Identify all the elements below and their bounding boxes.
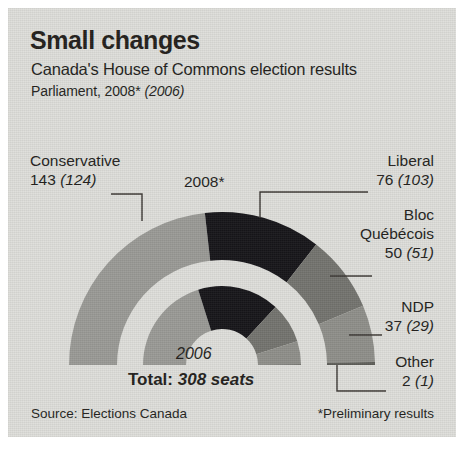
callout-bloc-name: Bloc Québécois xyxy=(360,206,434,244)
ring-label-2006: 2006 xyxy=(176,345,212,363)
callout-conservative-values: 143 (124) xyxy=(30,171,120,190)
leader-line-other xyxy=(337,365,386,391)
total-seats-label: Total: 308 seats xyxy=(128,370,254,390)
callout-other-previous: (1) xyxy=(415,372,434,389)
callout-liberal-previous: (103) xyxy=(398,171,434,188)
callout-ndp: NDP 37 (29) xyxy=(385,298,434,336)
callout-bloc-values: 50 (51) xyxy=(360,244,434,263)
callout-conservative-previous: (124) xyxy=(60,171,96,188)
leader-line-liberal xyxy=(260,192,368,218)
callout-ndp-name: NDP xyxy=(385,298,434,317)
arc-layer xyxy=(69,212,375,365)
callout-bloc-current: 50 xyxy=(385,244,402,261)
callout-ndp-current: 37 xyxy=(385,317,402,334)
callout-conservative-current: 143 xyxy=(30,171,56,188)
callout-ndp-previous: (29) xyxy=(406,317,434,334)
leader-line-conservative xyxy=(111,194,142,221)
callout-conservative: Conservative 143 (124) xyxy=(30,152,120,190)
callout-other-name: Other xyxy=(395,353,434,372)
chart-card: Small changes Canada's House of Commons … xyxy=(8,8,456,437)
total-prefix: Total: xyxy=(128,370,178,389)
callout-bloc-previous: (51) xyxy=(406,244,434,261)
callout-other-values: 2 (1) xyxy=(395,372,434,391)
ring-label-2008: 2008* xyxy=(184,173,225,191)
callout-liberal-current: 76 xyxy=(376,171,393,188)
source-label: Source: Elections Canada xyxy=(31,406,187,421)
footnote-label: *Preliminary results xyxy=(318,406,434,421)
callout-liberal-name: Liberal xyxy=(376,152,434,171)
callout-other-current: 2 xyxy=(402,372,411,389)
callout-bloc-quebecois: Bloc Québécois 50 (51) xyxy=(360,206,434,263)
callout-liberal: Liberal 76 (103) xyxy=(376,152,434,190)
callout-conservative-name: Conservative xyxy=(30,152,120,171)
callout-other: Other 2 (1) xyxy=(395,353,434,391)
callout-ndp-values: 37 (29) xyxy=(385,317,434,336)
callout-liberal-values: 76 (103) xyxy=(376,171,434,190)
total-value: 308 seats xyxy=(178,370,255,389)
